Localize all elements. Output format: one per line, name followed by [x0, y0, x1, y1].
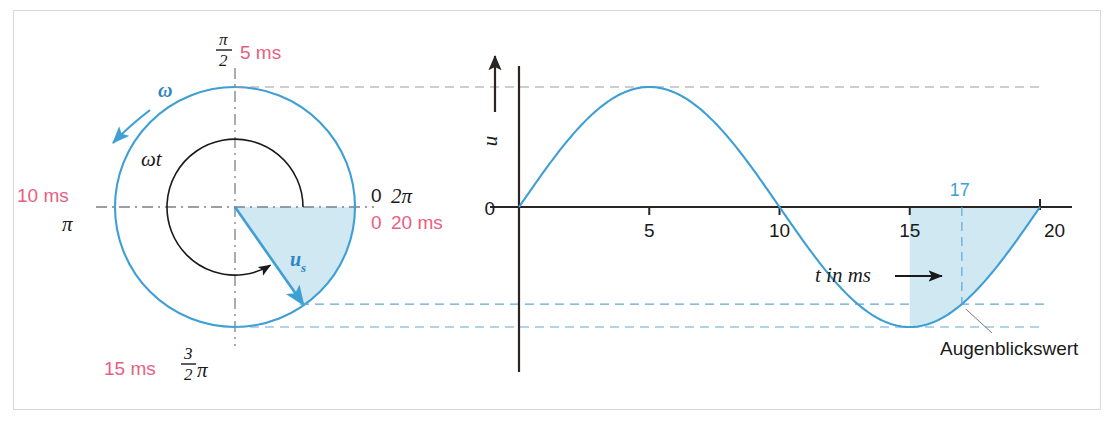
top-angle-numerator: π [219, 30, 228, 49]
instant-value-leader-line [966, 309, 992, 333]
phasor-vector-label-base: u [290, 248, 301, 270]
chart-y-axis-label: u [478, 136, 502, 147]
bottom-angle-pi: π [197, 358, 208, 382]
chart-x-axis-label: t in ms [815, 263, 871, 287]
instant-value-shaded-region [910, 207, 1040, 327]
omega-rotation-arrow [113, 110, 150, 143]
right-angle-zero: 0 [371, 185, 382, 206]
phasor-right-labels: 0 2π 0 20 ms [371, 184, 443, 233]
chart-xtick-label-10: 10 [769, 220, 790, 241]
waveform-chart: 17 0 5 10 15 20 u t in ms Augenblickswer… [478, 56, 1079, 372]
phasor-top-labels: π 2 5 ms [216, 30, 281, 70]
phasor-bottom-labels: 15 ms 3 2 π [104, 344, 208, 384]
omega-label: ω [158, 79, 172, 101]
omega-t-label: ωt [141, 147, 163, 171]
left-time-label: 10 ms [17, 185, 69, 206]
right-time-zero: 0 [371, 212, 382, 233]
bottom-angle-denominator: 2 [184, 365, 193, 384]
right-time-label: 20 ms [391, 212, 443, 233]
figure-root: ω ωt u s π 2 5 ms 10 ms π 0 [0, 0, 1115, 425]
phasor-left-labels: 10 ms π [17, 185, 73, 236]
chart-xtick-label-15: 15 [899, 220, 920, 241]
right-angle-label: 2π [391, 184, 413, 208]
chart-zero-label: 0 [484, 198, 495, 219]
instant-value-callout-label: Augenblickswert [940, 338, 1079, 359]
instant-value-callout: Augenblickswert [940, 309, 1079, 359]
left-angle-label: π [62, 212, 73, 236]
top-time-label: 5 ms [240, 42, 281, 63]
chart-xtick-label-5: 5 [644, 220, 655, 241]
top-angle-denominator: 2 [219, 51, 228, 70]
bottom-angle-numerator: 3 [183, 344, 193, 363]
chart-xtick-label-20: 20 [1044, 220, 1065, 241]
phasor-vector-label-sub: s [300, 260, 306, 275]
instant-value-marker-label: 17 [950, 180, 970, 200]
figure-svg: ω ωt u s π 2 5 ms 10 ms π 0 [0, 0, 1115, 425]
bottom-time-label: 15 ms [104, 358, 156, 379]
phasor-diagram: ω ωt u s π 2 5 ms 10 ms π 0 [17, 30, 443, 384]
